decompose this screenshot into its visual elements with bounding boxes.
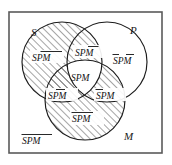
venn-diagram-figure: S P M SPM SPM SPM SPM SPM <box>0 0 172 165</box>
p-only-region: SPM <box>113 55 135 67</box>
s-only-label: SPM <box>32 53 52 63</box>
outside-label: SPM <box>22 136 42 146</box>
circle-label-s: S <box>31 26 37 38</box>
center-region: SPM <box>71 73 91 83</box>
s-and-m-label: SPM <box>48 91 68 101</box>
s-and-p-label: SPM <box>75 48 95 58</box>
s-only-region: SPM <box>30 50 64 63</box>
circle-label-m: M <box>123 130 134 142</box>
p-and-m-label: SPM <box>96 91 116 101</box>
s-and-m-region: SPM <box>46 88 78 101</box>
m-only-label: SPM <box>72 114 92 124</box>
circle-label-p: P <box>129 24 137 36</box>
p-and-m-region: SPM <box>94 88 126 101</box>
s-and-p-region: SPM <box>73 45 103 58</box>
p-only-label: SPM <box>113 56 133 66</box>
center-label: SPM <box>71 73 91 83</box>
m-only-region: SPM <box>70 111 104 125</box>
venn-diagram-svg: S P M SPM SPM SPM SPM SPM <box>0 0 172 165</box>
